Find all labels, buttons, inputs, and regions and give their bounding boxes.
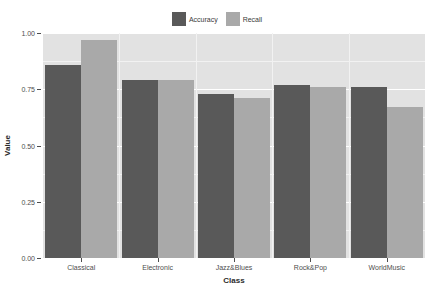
legend-entry-recall: Recall bbox=[226, 12, 262, 26]
y-tick-label: 0.50 bbox=[21, 142, 35, 149]
y-tick-mark bbox=[37, 89, 41, 90]
y-tick-mark bbox=[37, 258, 41, 259]
bar-accuracy-jazz-blues bbox=[198, 94, 234, 258]
y-tick-label: 0.75 bbox=[21, 86, 35, 93]
bar-chart: Accuracy Recall 0.000.250.500.751.00 Val… bbox=[0, 0, 442, 299]
bar-accuracy-worldmusic bbox=[351, 87, 387, 258]
plot-panel bbox=[43, 33, 425, 258]
x-tick-mark bbox=[387, 258, 388, 262]
x-axis: ClassicalElectronicJazz&BluesRock&PopWor… bbox=[43, 258, 425, 276]
legend-label-accuracy: Accuracy bbox=[189, 16, 218, 23]
bar-recall-rock-pop bbox=[310, 87, 346, 258]
legend-swatch-recall bbox=[226, 12, 240, 26]
y-tick-label: 1.00 bbox=[21, 30, 35, 37]
y-tick-label: 0.00 bbox=[21, 255, 35, 262]
legend-label-recall: Recall bbox=[243, 16, 262, 23]
x-tick-label: Jazz&Blues bbox=[216, 264, 253, 271]
x-tick-label: Electronic bbox=[142, 264, 173, 271]
x-tick-mark bbox=[81, 258, 82, 262]
y-tick-label: 0.25 bbox=[21, 198, 35, 205]
legend-entry-accuracy: Accuracy bbox=[172, 12, 218, 26]
y-tick-mark bbox=[37, 146, 41, 147]
bar-accuracy-classical bbox=[45, 65, 81, 259]
y-tick-mark bbox=[37, 202, 41, 203]
bar-recall-classical bbox=[81, 40, 117, 258]
x-tick-label: Rock&Pop bbox=[294, 264, 327, 271]
bar-recall-worldmusic bbox=[387, 107, 423, 258]
bars-layer bbox=[43, 33, 425, 258]
x-tick-mark bbox=[158, 258, 159, 262]
x-axis-title: Class bbox=[43, 276, 425, 285]
x-tick-label: WorldMusic bbox=[369, 264, 405, 271]
bar-recall-electronic bbox=[158, 80, 194, 258]
legend-swatch-accuracy bbox=[172, 12, 186, 26]
y-axis-title: Value bbox=[2, 33, 14, 258]
x-tick-mark bbox=[234, 258, 235, 262]
x-tick-mark bbox=[310, 258, 311, 262]
y-tick-mark bbox=[37, 33, 41, 34]
chart-legend: Accuracy Recall bbox=[0, 11, 442, 27]
bar-recall-jazz-blues bbox=[234, 98, 270, 258]
x-tick-label: Classical bbox=[67, 264, 95, 271]
bar-accuracy-rock-pop bbox=[274, 85, 310, 258]
bar-accuracy-electronic bbox=[122, 80, 158, 258]
